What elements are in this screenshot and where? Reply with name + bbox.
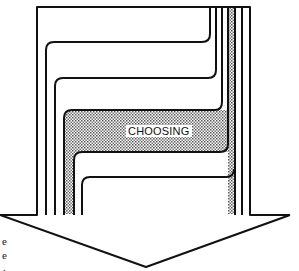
edge-fragment-3: . — [3, 262, 6, 271]
choosing-label: CHOOSING — [126, 125, 192, 137]
edge-fragment-1: e — [2, 236, 7, 247]
edge-fragment-2: e — [2, 250, 7, 261]
arrow-head — [0, 215, 290, 267]
path-3 — [64, 7, 222, 215]
path-5 — [82, 169, 234, 215]
